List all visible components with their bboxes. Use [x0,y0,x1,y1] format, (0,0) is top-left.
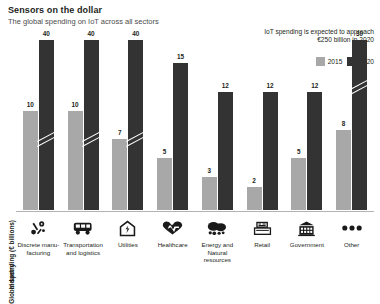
ellipsis-icon [341,218,363,238]
tools-icon [29,218,48,238]
bar[interactable]: 5 [291,158,306,210]
bar[interactable]: 10 [23,111,38,210]
category-item[interactable]: Government [285,216,330,278]
category-label: Discrete manu-facturing [16,241,61,256]
plot-area: 10401040740515312212512830 [16,30,374,210]
axis-break-mark [36,132,57,146]
chart-subtitle: The global spending on IoT across all se… [8,17,159,27]
bar[interactable]: 7 [112,139,127,210]
bar[interactable]: 12 [307,92,322,210]
bar-group: 1040 [61,30,106,210]
bar-value-label: 2 [252,177,256,184]
bar[interactable]: 15 [173,63,188,210]
bar[interactable]: 3 [202,177,217,210]
category-label: Transportation and logistics [61,241,106,256]
bar-value-label: 10 [72,101,79,108]
bar-value-label: 30 [356,30,363,37]
bar-value-label: 3 [208,167,212,174]
bar-value-label: 15 [177,53,184,60]
category-item[interactable]: Transportation and logistics [61,216,106,278]
bus-icon [73,218,94,238]
axis-break-mark [81,132,102,146]
bar-value-label: 5 [297,148,301,155]
category-item[interactable]: Energy and Natural resources [195,216,240,278]
bar[interactable]: 5 [157,158,172,210]
bar[interactable]: 8 [336,130,351,210]
bar-value-label: 12 [222,82,229,89]
category-item[interactable]: Utilities [106,216,151,278]
government-building-icon [297,218,316,238]
y-axis-label: Global spending (€ billions) [1,100,12,220]
bar[interactable]: 40 [84,40,99,210]
bar-value-label: 40 [132,30,139,37]
category-item[interactable]: Healthcare [150,216,195,278]
bar-group: 515 [150,30,195,210]
bar-value-label: 12 [311,82,318,89]
bar-group: 312 [195,30,240,210]
axis-break-mark [125,132,146,146]
bar-group: 1040 [16,30,61,210]
bar-group: 212 [240,30,285,210]
category-label: Utilities [118,241,138,249]
heartbeat-icon [162,218,183,238]
bar-value-label: 40 [88,30,95,37]
category-item[interactable]: Other [329,216,374,278]
bar[interactable]: 30 [352,40,367,210]
bar-group: 512 [285,30,330,210]
category-axis: Discrete manu-facturingTransportation an… [16,216,374,278]
category-label: Government [290,241,324,249]
bar-value-label: 8 [342,120,346,127]
category-label: Energy and Natural resources [195,241,240,264]
bar[interactable]: 40 [128,40,143,210]
x-axis-label: Industry [1,222,12,268]
page-title: Sensors on the dollar [8,5,159,16]
bar[interactable]: 12 [218,92,233,210]
bar-value-label: 7 [118,129,122,136]
category-label: Healthcare [158,241,188,249]
bar[interactable]: 12 [263,92,278,210]
category-label: Other [344,241,359,249]
house-bolt-icon [119,218,136,238]
x-axis-baseline [16,211,374,212]
chart-header: Sensors on the dollar The global spendin… [8,5,159,27]
bar[interactable]: 10 [68,111,83,210]
bar-value-label: 12 [267,82,274,89]
bar[interactable]: 2 [247,187,262,210]
bar[interactable]: 40 [39,40,54,210]
cash-register-icon [253,218,272,238]
bar-group: 740 [106,30,151,210]
bar-value-label: 10 [27,101,34,108]
bar-value-label: 5 [163,148,167,155]
nature-icon [207,218,228,238]
bar-value-label: 40 [43,30,50,37]
x-axis-label-text: Industry [8,264,15,289]
category-item[interactable]: Retail [240,216,285,278]
category-label: Retail [254,241,270,249]
category-item[interactable]: Discrete manu-facturing [16,216,61,278]
axis-break-mark [349,80,370,94]
bar-group: 830 [329,30,374,210]
